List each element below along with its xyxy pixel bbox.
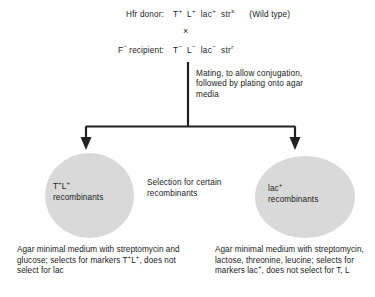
right-plate-label-text: recombinants xyxy=(268,195,318,204)
genotype-marker: T+ xyxy=(173,10,182,19)
gene-charge: + xyxy=(212,7,216,14)
hfr-donor-label: Hfr donor: xyxy=(104,9,164,20)
selection-note: Selection for certain recombinants xyxy=(147,178,247,199)
genotype-marker: strs xyxy=(221,10,234,19)
gene-symbol: lac xyxy=(201,46,213,55)
hfr-donor-genotype: T+L+lac+strs xyxy=(173,10,239,19)
genotype-marker: T+ xyxy=(123,256,132,265)
cross-multiplication-symbol: × xyxy=(183,26,188,36)
gene-charge: + xyxy=(279,181,283,188)
gene-charge: − xyxy=(178,43,182,50)
genotype-marker: L− xyxy=(187,46,196,55)
wild-type-note: (Wild type) xyxy=(249,10,290,19)
gene-charge: − xyxy=(212,43,216,50)
gene-charge: s xyxy=(231,7,234,14)
right-plate-caption: Agar minimal medium with streptomycin, l… xyxy=(215,245,375,277)
left-arrowhead xyxy=(81,137,92,150)
hfr-donor-line: Hfr donor:T+L+lac+strs(Wild type) xyxy=(104,9,290,20)
right-plate-label: lac+ recombinants xyxy=(268,184,356,205)
genotype-marker: L+ xyxy=(187,10,196,19)
gene-symbol: str xyxy=(221,46,231,55)
genotype-marker: L+ xyxy=(62,182,70,191)
genotype-marker: lac+ xyxy=(268,184,282,193)
gene-charge: + xyxy=(192,7,196,14)
mating-step-annotation: Mating, to allow conjugation, followed b… xyxy=(196,69,316,100)
genotype-marker: lac+ xyxy=(201,10,216,19)
genotype-marker: strr xyxy=(221,46,233,55)
gene-charge: + xyxy=(178,7,182,14)
right-arrowhead xyxy=(290,137,301,150)
gene-symbol: str xyxy=(221,10,231,19)
genotype-marker: lac+ xyxy=(247,266,261,275)
right-caption-part2: , does not select for T, L xyxy=(262,266,350,275)
gene-symbol: lac xyxy=(247,266,258,275)
left-plate-label: T+L+ recombinants xyxy=(53,182,133,203)
gene-charge: + xyxy=(66,179,70,186)
genotype-marker: T− xyxy=(173,46,182,55)
gene-symbol: lac xyxy=(201,10,213,19)
recipient-word: recipient: xyxy=(127,46,164,55)
gene-charge: r xyxy=(231,43,233,50)
genotype-marker: T+ xyxy=(53,182,62,191)
f-minus-recipient-line: F− recipient:T−L−lac−strr xyxy=(104,45,238,56)
gene-symbol: lac xyxy=(268,184,279,193)
f-minus-recipient-genotype: T−L−lac−strr xyxy=(173,46,238,55)
f-minus-recipient-label: F− recipient: xyxy=(104,45,164,56)
left-plate-label-text: recombinants xyxy=(53,193,103,202)
gene-charge: − xyxy=(192,43,196,50)
conjugation-cross-diagram: Hfr donor:T+L+lac+strs(Wild type) × F− r… xyxy=(0,0,375,297)
left-plate-caption: Agar minimal medium with streptomycin an… xyxy=(17,245,182,277)
genotype-marker: lac− xyxy=(201,46,216,55)
